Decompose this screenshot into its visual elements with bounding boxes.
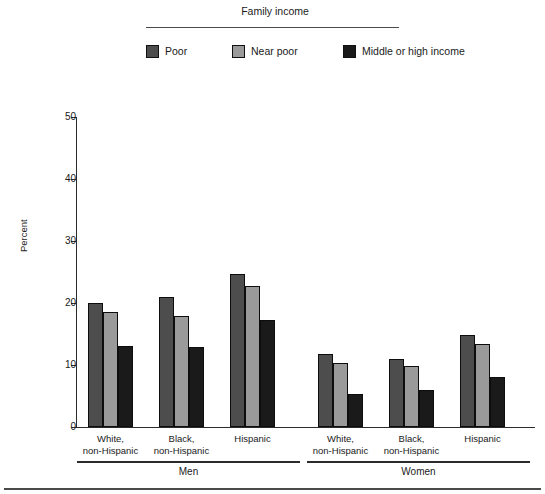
bar	[260, 320, 275, 427]
bar	[333, 363, 348, 427]
bar	[460, 335, 475, 427]
y-tick-label: 0	[52, 421, 76, 432]
y-tick: 20	[40, 303, 76, 304]
bar	[389, 359, 404, 427]
bar	[404, 366, 419, 427]
category-label-line: non-Hispanic	[367, 445, 457, 457]
supergroup-rule	[77, 461, 300, 463]
supergroup-rule	[307, 461, 530, 463]
bar	[318, 354, 333, 427]
bar	[419, 390, 434, 427]
y-tick-label: 10	[52, 359, 76, 370]
supergroup-label: Men	[77, 466, 300, 477]
y-tick-label: 40	[52, 173, 76, 184]
x-axis-line	[76, 427, 535, 428]
bar	[174, 316, 189, 427]
category-label: Hispanic	[438, 433, 528, 445]
y-tick: 40	[40, 179, 76, 180]
category-label-line: non-Hispanic	[137, 445, 227, 457]
category-label-line: Hispanic	[208, 433, 298, 445]
category-label-line: Hispanic	[438, 433, 528, 445]
y-axis-title: Percent	[18, 219, 29, 252]
y-tick-label: 50	[52, 111, 76, 122]
bar	[159, 297, 174, 427]
y-tick: 10	[40, 365, 76, 366]
y-tick: 50	[40, 117, 76, 118]
bar	[245, 286, 260, 427]
bar	[475, 344, 490, 427]
bar	[189, 347, 204, 427]
bar	[118, 346, 133, 427]
bar	[230, 274, 245, 427]
y-tick-label: 30	[52, 235, 76, 246]
supergroup-label: Women	[307, 466, 530, 477]
bar-chart-plot: Percent 01020304050 White,non-HispanicBl…	[0, 0, 545, 494]
bar	[348, 394, 363, 427]
y-tick: 0	[40, 427, 76, 428]
y-tick: 30	[40, 241, 76, 242]
bar	[88, 303, 103, 427]
y-tick-label: 20	[52, 297, 76, 308]
bar	[103, 312, 118, 427]
category-label: Hispanic	[208, 433, 298, 445]
bar	[490, 377, 505, 427]
footer-divider	[4, 488, 541, 490]
y-axis-line	[76, 117, 77, 428]
